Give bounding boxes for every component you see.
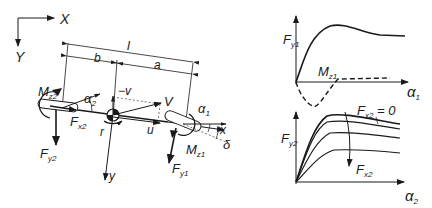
- fy2-curve-fx3: [296, 150, 400, 182]
- rear-distance-label: b: [94, 51, 101, 65]
- figure-canvas: X Y l b a x y r: [0, 0, 432, 208]
- fy1-curve: [296, 25, 405, 82]
- lateral-velocity-label: −v: [118, 84, 132, 98]
- chart2-xlabel: α2: [405, 187, 419, 206]
- chart2-fx-label: Fx2: [356, 162, 373, 179]
- velocity-vectors: [113, 96, 161, 123]
- chart-front-tyre: [296, 16, 408, 106]
- longitudinal-velocity-label: u: [147, 123, 154, 137]
- body-x-label: x: [219, 123, 227, 137]
- front-moment-label: Mz1: [186, 142, 205, 159]
- rear-longitudinal-force-label: Fx2: [70, 114, 87, 131]
- front-slip-angle-label: α1: [198, 101, 210, 118]
- velocity-label: V: [164, 94, 174, 109]
- global-x-label: X: [59, 11, 70, 27]
- rear-lateral-force-label: Fy2: [40, 146, 57, 163]
- rear-slip-angle-label: α2: [84, 91, 96, 108]
- vehicle-body: x y: [40, 105, 227, 183]
- fx2-increase-arrow: [345, 112, 350, 166]
- chart2-ylabel: Fy2: [281, 131, 298, 148]
- chart1-ylabel: Fy1: [283, 32, 299, 49]
- wheelbase-label: l: [127, 38, 131, 53]
- chart-rear-tyre: [296, 112, 404, 184]
- front-distance-label: a: [154, 58, 161, 72]
- chart2-fx0-label: Fx2 = 0: [357, 103, 396, 120]
- steer-angle-label: δ: [223, 137, 231, 152]
- chart1-mz-label: Mz1: [318, 64, 337, 81]
- front-lateral-force-label: Fy1: [172, 161, 188, 178]
- global-y-label: Y: [15, 49, 26, 65]
- vehicle-model-figure: X Y l b a x y r: [0, 0, 432, 208]
- yaw-rate-label: r: [100, 125, 105, 139]
- body-y-label: y: [108, 169, 116, 183]
- chart1-xlabel: α1: [407, 83, 420, 102]
- rear-moment-label: Mz2: [38, 84, 58, 101]
- global-frame-axes: X Y: [15, 11, 70, 65]
